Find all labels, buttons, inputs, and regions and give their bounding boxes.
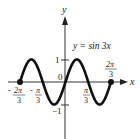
svg-text:π: π bbox=[36, 86, 41, 95]
y-axis-arrow-icon bbox=[62, 16, 68, 25]
svg-text:-: - bbox=[30, 86, 33, 95]
x-tick-label-pi-3: π 3 bbox=[83, 86, 90, 105]
x-tick-label-neg-2pi-3: - 2π 3 bbox=[8, 86, 25, 105]
svg-text:2π: 2π bbox=[14, 86, 23, 95]
x-axis-arrow-icon bbox=[120, 79, 128, 85]
y-tick-label-1: 1 bbox=[55, 55, 60, 65]
equation-label: y = sin 3x bbox=[72, 41, 112, 51]
x-tick-label-2pi-3: 2π 3 bbox=[105, 60, 117, 79]
y-axis-label: y bbox=[61, 4, 67, 15]
left-endpoint-dot bbox=[17, 79, 23, 85]
origin-label: 0 bbox=[58, 72, 63, 82]
svg-text:3: 3 bbox=[36, 96, 40, 105]
x-axis-label: x bbox=[129, 76, 135, 87]
sine-graph: x y 1 −1 0 - 2π 3 - π 3 π 3 2π 3 y = sin… bbox=[0, 0, 140, 139]
svg-text:2π: 2π bbox=[106, 60, 115, 69]
right-endpoint-dot bbox=[108, 79, 114, 85]
svg-text:-: - bbox=[8, 86, 11, 95]
svg-text:3: 3 bbox=[109, 70, 113, 79]
x-tick-label-neg-pi-3: - π 3 bbox=[30, 86, 42, 105]
svg-text:3: 3 bbox=[17, 96, 21, 105]
svg-text:3: 3 bbox=[84, 96, 88, 105]
svg-text:π: π bbox=[84, 86, 89, 95]
y-tick-label-neg1: −1 bbox=[52, 106, 62, 116]
